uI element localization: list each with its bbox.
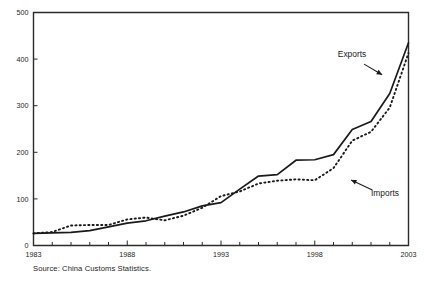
x-tick-label: 1998 [307, 250, 323, 259]
y-tick-label: 200 [17, 148, 29, 157]
x-tick-label: 1983 [26, 250, 42, 259]
y-tick-label: 400 [17, 55, 29, 64]
y-tick-label: 100 [17, 195, 29, 204]
chart-figure: 010020030040050019831988199319982003 Exp… [0, 0, 424, 283]
y-tick-label: 500 [17, 8, 29, 17]
annotation-label-exports: Exports [338, 49, 366, 59]
series-line-imports [34, 53, 409, 233]
x-tick-label: 2003 [401, 250, 417, 259]
y-tick-label: 300 [17, 101, 29, 110]
series-line-exports [34, 43, 409, 234]
line-chart: 010020030040050019831988199319982003 Exp… [0, 0, 424, 283]
chart-tick-labels: 010020030040050019831988199319982003 [17, 8, 417, 258]
x-tick-label: 1993 [213, 250, 229, 259]
annotation-label-imports: Imports [371, 188, 399, 198]
chart-series [34, 43, 409, 234]
x-tick-label: 1988 [119, 250, 135, 259]
source-note: Source: China Customs Statistics. [33, 264, 151, 273]
